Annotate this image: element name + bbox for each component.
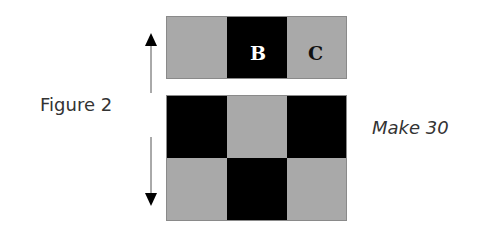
arrow-up-head [145, 33, 157, 46]
grid-cell [287, 158, 346, 220]
figure-label: Figure 2 [40, 95, 112, 115]
cell-letter-b: B [250, 44, 266, 63]
strip-cell-c: C [287, 17, 346, 78]
cell-letter-c: C [308, 44, 323, 63]
quantity-label: Make 30 [372, 118, 449, 138]
grid-cell [167, 158, 227, 220]
checker-grid [166, 95, 347, 221]
grid-cell [167, 96, 227, 158]
strip-cell-b: B [227, 17, 287, 78]
double-arrow-icon [140, 28, 164, 212]
grid-cell [287, 96, 346, 158]
arrow-down-head [145, 193, 157, 206]
grid-cell [227, 158, 287, 220]
grid-cell [227, 96, 287, 158]
top-strip: B C [166, 16, 347, 79]
strip-cell-left [167, 17, 227, 78]
